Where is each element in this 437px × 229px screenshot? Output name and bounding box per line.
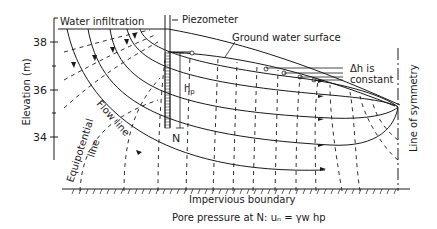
water-infiltration-label: Water infiltration [60, 16, 144, 27]
y-axis-label: Elevation (m) [21, 58, 32, 125]
constant-label: constant [350, 74, 394, 85]
tick-38: 38 [33, 36, 47, 49]
hp-label: hp [184, 83, 195, 96]
piezometer-label: Piezometer [182, 14, 239, 25]
flow-net-diagram: 38 36 34 Elevation (m) Water infiltratio… [0, 0, 437, 229]
tick-36: 36 [33, 84, 47, 97]
gws-leader [225, 42, 235, 57]
point-n-label: N [172, 132, 180, 145]
flow-line-label: Flow line [95, 98, 133, 138]
elevation-axis [50, 18, 58, 160]
flow-lines [67, 29, 398, 170]
caption: Pore pressure at N: uₙ = γw hp [172, 212, 326, 223]
impervious-boundary-label: Impervious boundary [189, 194, 296, 205]
piezometer [165, 15, 190, 128]
tick-34: 34 [33, 131, 47, 144]
delta-h-label: Δh is [350, 63, 374, 74]
line-of-symmetry-label: Line of symmetry [408, 64, 419, 152]
hp-dimension [176, 53, 184, 128]
ground-water-surface-label: Ground water surface [232, 32, 341, 43]
